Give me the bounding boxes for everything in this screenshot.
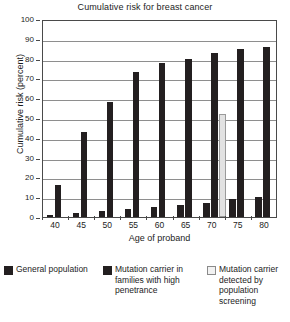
bar: [107, 102, 114, 217]
x-tick-label: 40: [50, 220, 59, 230]
bar: [211, 53, 218, 217]
plot-area: [42, 20, 277, 218]
bar: [203, 203, 210, 217]
y-tick-label: 30: [25, 155, 34, 163]
x-tick-label: 45: [76, 220, 85, 230]
bar: [237, 49, 244, 217]
bar: [263, 47, 270, 217]
bar: [73, 213, 80, 217]
legend-swatch-icon-general-population: [4, 266, 13, 275]
legend-swatch-icon-high-penetrance: [103, 266, 112, 275]
y-tick-mark: [36, 60, 40, 61]
bar: [99, 211, 106, 217]
bar: [185, 59, 192, 217]
x-tick-label: 80: [259, 220, 268, 230]
y-tick-mark: [36, 178, 40, 179]
x-tick-mark: [120, 216, 121, 220]
y-tick-label: 0: [30, 214, 34, 222]
legend-swatch-icon-population-screening: [207, 266, 216, 275]
x-tick-mark: [251, 216, 252, 220]
y-tick-mark: [36, 119, 40, 120]
x-axis-tick-labels: 404550556065707580: [42, 220, 277, 234]
y-tick-mark: [36, 198, 40, 199]
x-tick-label: 75: [233, 220, 242, 230]
x-tick-mark: [42, 216, 43, 220]
bar: [219, 114, 226, 217]
bar: [81, 132, 88, 217]
x-tick-mark: [173, 216, 174, 220]
chart-figure: Cumulative risk for breast cancer Cumula…: [0, 0, 290, 322]
y-tick-mark: [36, 40, 40, 41]
bar: [159, 63, 166, 217]
x-tick-label: 65: [181, 220, 190, 230]
x-tick-mark: [94, 216, 95, 220]
y-tick-mark: [36, 99, 40, 100]
chart-title: Cumulative risk for breast cancer: [0, 2, 290, 12]
bar: [55, 185, 62, 217]
x-tick-label: 55: [129, 220, 138, 230]
x-tick-mark: [146, 216, 147, 220]
y-tick-mark: [36, 139, 40, 140]
x-tick-label: 70: [207, 220, 216, 230]
legend-label-high-penetrance: Mutation carrier in families with high p…: [115, 264, 207, 296]
x-tick-mark: [199, 216, 200, 220]
y-tick-label: 60: [25, 95, 34, 103]
bar: [125, 209, 132, 217]
bar: [229, 199, 236, 217]
y-tick-label: 70: [25, 75, 34, 83]
x-tick-label: 60: [155, 220, 164, 230]
bar: [151, 207, 158, 217]
y-tick-mark: [36, 20, 40, 21]
bar: [255, 197, 262, 217]
y-tick-label: 50: [25, 115, 34, 123]
x-tick-mark: [225, 216, 226, 220]
bar: [177, 205, 184, 217]
x-tick-label: 50: [103, 220, 112, 230]
chart-legend: General population Mutation carrier in f…: [4, 264, 290, 320]
y-tick-mark: [36, 218, 40, 219]
legend-label-general-population: General population: [16, 264, 94, 275]
y-tick-label: 100: [21, 16, 34, 24]
legend-label-population-screening: Mutation carrier detected by population …: [219, 264, 290, 306]
y-tick-label: 40: [25, 135, 34, 143]
x-axis-title: Age of proband: [42, 233, 277, 243]
y-tick-mark: [36, 159, 40, 160]
y-tick-mark: [36, 79, 40, 80]
bar: [133, 72, 140, 217]
y-tick-label: 90: [25, 36, 34, 44]
bar: [47, 215, 54, 217]
x-tick-mark: [68, 216, 69, 220]
y-tick-label: 10: [25, 194, 34, 202]
y-tick-label: 20: [25, 174, 34, 182]
y-axis-tick-labels: 0102030405060708090100: [0, 20, 40, 218]
bars-layer: [43, 21, 276, 217]
y-tick-label: 80: [25, 56, 34, 64]
